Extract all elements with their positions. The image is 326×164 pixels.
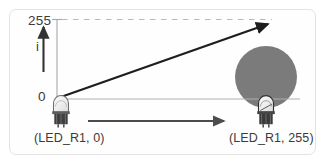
led-icon-left (52, 96, 70, 128)
y-axis-max-label: 255 (28, 13, 51, 28)
led-left-state-label: (LED_R1, 0) (34, 131, 105, 145)
y-axis-name-label: i (36, 39, 39, 54)
ramp-arrow (58, 24, 268, 98)
led-right-state-label: (LED_R1, 255) (229, 131, 314, 145)
led-icon-right (257, 96, 275, 128)
y-axis-min-label: 0 (38, 89, 46, 104)
figure-root: 255 0 i (LED_R1, 0) (LED_R1, 255) (0, 0, 326, 164)
